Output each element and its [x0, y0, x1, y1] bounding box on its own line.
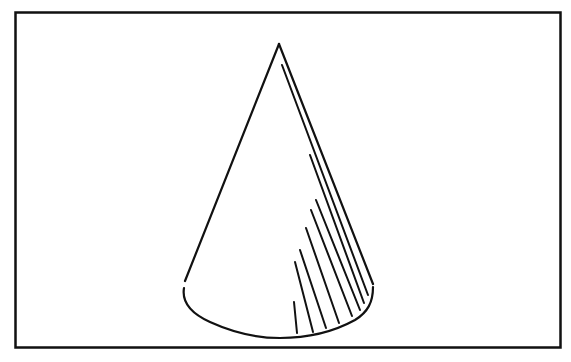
shading-hatch [282, 65, 368, 333]
cone [184, 44, 373, 338]
cone-left-edge [185, 44, 279, 281]
cone-diagram [0, 0, 571, 362]
frame-border [16, 13, 561, 348]
